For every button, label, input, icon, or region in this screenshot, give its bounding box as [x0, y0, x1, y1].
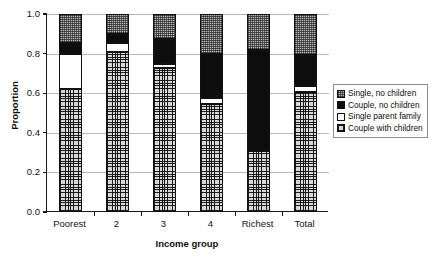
legend-label: Single, no children	[348, 88, 416, 100]
y-axis-tick-label: 0.0	[6, 206, 40, 217]
legend-swatch	[337, 113, 345, 121]
x-axis-tick-label: Total	[265, 218, 345, 229]
legend-item: Single parent family	[337, 111, 423, 123]
legend-swatch	[337, 124, 345, 132]
legend-item: Couple with children	[337, 123, 423, 135]
y-axis-title: Proportion	[9, 71, 20, 141]
legend-label: Single parent family	[348, 111, 421, 123]
y-axis-tick-label: 0.2	[6, 166, 40, 177]
chart-legend: Single, no childrenCouple, no childrenSi…	[333, 84, 428, 138]
legend-swatch	[337, 101, 345, 109]
legend-item: Couple, no children	[337, 100, 423, 112]
legend-swatch	[337, 90, 345, 98]
legend-label: Couple, no children	[348, 100, 420, 112]
chart-figure: 0.00.20.40.60.81.0 Proportion Income gro…	[0, 0, 432, 263]
legend-item: Single, no children	[337, 88, 423, 100]
legend-label: Couple with children	[348, 123, 423, 135]
x-axis-title: Income group	[46, 238, 328, 249]
y-axis-tick-label: 1.0	[6, 8, 40, 19]
y-axis-tick-label: 0.8	[6, 48, 40, 59]
